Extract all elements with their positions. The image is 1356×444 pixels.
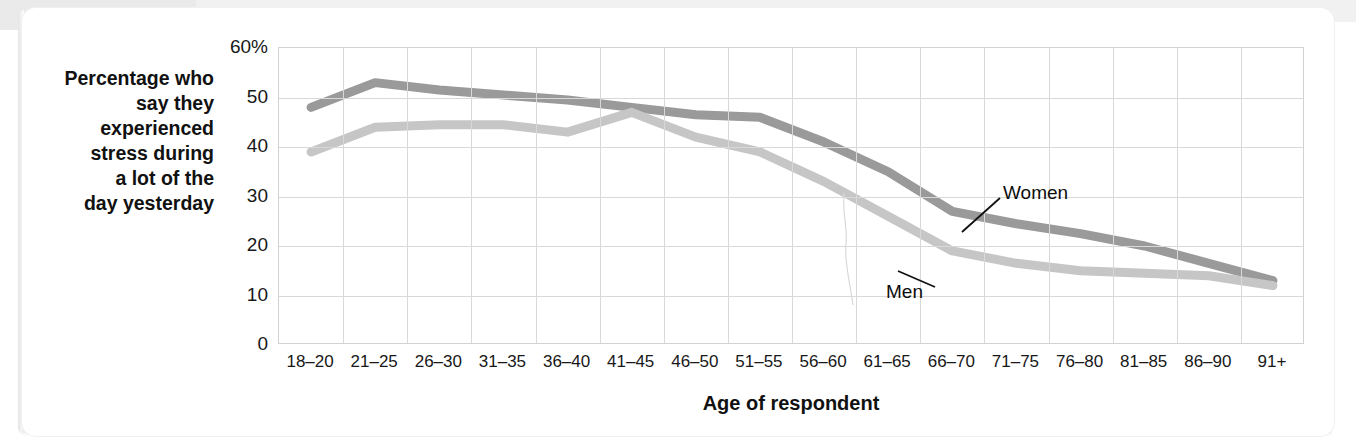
x-axis-tick-label: 26–30 — [415, 352, 462, 372]
series-annotation-men: Men — [886, 281, 923, 303]
y-axis-tick-label: 30 — [0, 185, 268, 207]
y-axis-tick-label: 50 — [0, 86, 268, 108]
series-annotation-women: Women — [1003, 182, 1068, 204]
gridline-vertical — [1177, 48, 1178, 343]
gridline-vertical — [728, 48, 729, 343]
gridline-horizontal — [279, 246, 1303, 247]
gridline-horizontal — [279, 197, 1303, 198]
gridline-horizontal — [279, 147, 1303, 148]
gridline-vertical — [1241, 48, 1242, 343]
x-axis-tick-label: 81–85 — [1120, 352, 1167, 372]
x-axis-tick-label: 56–60 — [799, 352, 846, 372]
y-axis-tick-label: 60% — [0, 36, 268, 58]
x-axis-tick-label: 46–50 — [671, 352, 718, 372]
x-axis-tick-label: 91+ — [1258, 352, 1287, 372]
y-axis-tick-label: 20 — [0, 234, 268, 256]
x-axis-tick-label: 18–20 — [286, 352, 333, 372]
gridline-vertical — [984, 48, 985, 343]
gridline-horizontal — [279, 296, 1303, 297]
x-axis-tick-label: 76–80 — [1056, 352, 1103, 372]
x-axis-tick-label: 51–55 — [735, 352, 782, 372]
x-axis-tick-label: 21–25 — [351, 352, 398, 372]
figure-page: Percentage whosay theyexperiencedstress … — [0, 0, 1356, 444]
x-axis-title: Age of respondent — [278, 392, 1304, 415]
gridline-horizontal — [279, 98, 1303, 99]
gridline-vertical — [664, 48, 665, 343]
x-axis-tick-label: 36–40 — [543, 352, 590, 372]
gridline-vertical — [471, 48, 472, 343]
x-axis-tick-label: 61–65 — [864, 352, 911, 372]
gridline-vertical — [407, 48, 408, 343]
gridline-vertical — [536, 48, 537, 343]
plot-area — [278, 47, 1304, 344]
y-axis-tick-label: 40 — [0, 135, 268, 157]
x-axis-tick-label: 66–70 — [928, 352, 975, 372]
gridline-vertical — [343, 48, 344, 343]
y-axis-tick-label: 0 — [0, 333, 268, 355]
x-axis-tick-label: 31–35 — [479, 352, 526, 372]
y-axis-tick-label: 10 — [0, 284, 268, 306]
x-axis-tick-label: 86–90 — [1184, 352, 1231, 372]
x-axis-tick-label: 71–75 — [992, 352, 1039, 372]
x-axis-tick-label: 41–45 — [607, 352, 654, 372]
gridline-vertical — [792, 48, 793, 343]
y-axis-tick-group: 0102030405060% — [0, 0, 278, 444]
gridline-vertical — [1113, 48, 1114, 343]
gridline-vertical — [600, 48, 601, 343]
gridline-vertical — [856, 48, 857, 343]
